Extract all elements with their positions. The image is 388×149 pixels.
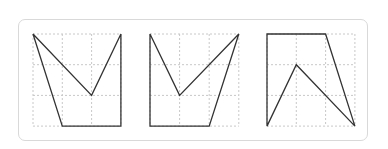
figure-2 — [150, 34, 239, 126]
figure-1 — [33, 34, 121, 126]
figures-canvas — [0, 0, 388, 149]
polygon-shape — [150, 34, 239, 126]
figure-3 — [267, 34, 355, 126]
polygon-shape — [33, 34, 121, 126]
polygon-shape — [267, 34, 355, 126]
